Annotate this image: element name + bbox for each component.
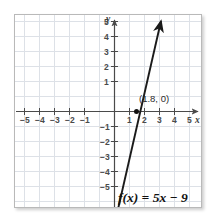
intercept-point-label: (1.8, 0)	[139, 94, 169, 104]
y-tick-1: 1	[104, 78, 109, 87]
x-tick-3: 3	[157, 116, 162, 125]
x-tick-2: 2	[142, 116, 147, 125]
x-tick-1: 1	[127, 116, 132, 125]
x-tick--3: −3	[50, 116, 60, 125]
x-tick-4: 4	[172, 116, 177, 125]
y-tick--3: −3	[100, 153, 110, 162]
line-fx	[116, 21, 161, 208]
x-tick--5: −5	[20, 116, 30, 125]
function-line	[15, 15, 202, 208]
figure-container: −5 −4 −3 −2 −1 1 2 3 4 5 5 4 3 2 1 −1 −2…	[0, 0, 215, 222]
y-tick-4: 4	[104, 33, 109, 42]
x-tick--4: −4	[35, 116, 45, 125]
y-tick--5: −5	[100, 183, 110, 192]
intercept-point-marker	[134, 109, 139, 114]
x-tick--2: −2	[65, 116, 75, 125]
y-tick-3: 3	[104, 48, 109, 57]
y-tick--4: −4	[100, 168, 110, 177]
function-equation-label: f(x) = 5x − 9	[118, 191, 188, 205]
x-tick--1: −1	[80, 116, 90, 125]
y-tick-2: 2	[104, 63, 109, 72]
plot-frame: −5 −4 −3 −2 −1 1 2 3 4 5 5 4 3 2 1 −1 −2…	[14, 14, 202, 208]
y-tick--1: −1	[100, 123, 110, 132]
x-axis-label: x	[195, 116, 200, 126]
y-axis-label: y	[106, 15, 110, 25]
x-tick-5: 5	[187, 116, 192, 125]
y-tick--2: −2	[100, 138, 110, 147]
